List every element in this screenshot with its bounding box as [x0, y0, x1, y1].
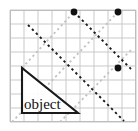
point-top-right: [115, 9, 122, 16]
point-right: [115, 65, 122, 72]
diagram-canvas: object: [0, 0, 138, 131]
object-label: object: [24, 96, 61, 112]
point-top-left: [71, 9, 78, 16]
ray-diagram-figure: object: [0, 0, 138, 131]
